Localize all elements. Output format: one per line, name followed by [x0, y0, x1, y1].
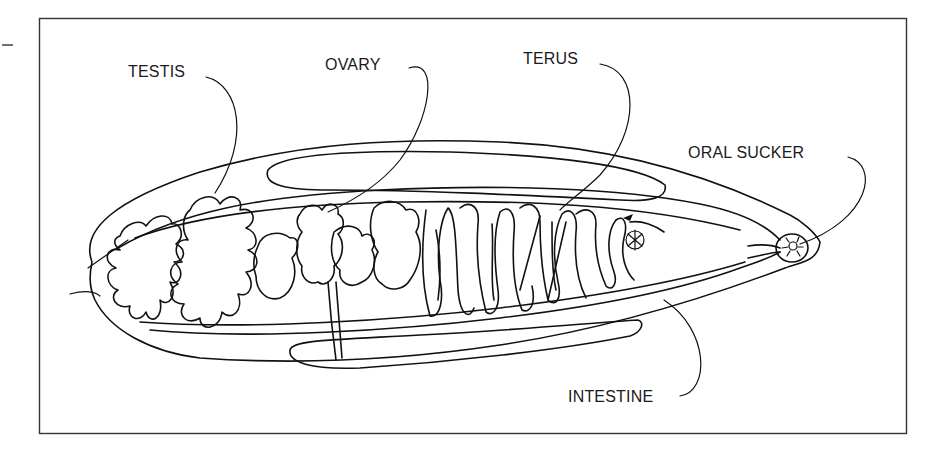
label-ovary: OVARY: [325, 57, 381, 73]
intestine-cecum-lower: [150, 252, 780, 334]
label-intestine: INTESTINE: [568, 389, 653, 405]
ovary: [297, 204, 344, 284]
leader-uterus: [560, 64, 630, 210]
label-uterus: TERUS: [523, 51, 578, 67]
body-outline: [90, 141, 820, 361]
uterus-proximal-coil: [371, 201, 421, 289]
diagram-canvas: TESTIS OVARY TERUS ORAL SUCKER INTESTINE: [0, 0, 949, 459]
leader-intestine: [664, 300, 701, 396]
posterior-notch: [70, 292, 100, 296]
figure-frame: [40, 19, 907, 434]
cirrus: [88, 240, 128, 268]
oral-sucker-mouth: [789, 242, 797, 250]
testis-anterior: [171, 197, 257, 327]
leader-testis: [206, 77, 237, 193]
uterus-coils: [423, 204, 634, 316]
label-oral-sucker: ORAL SUCKER: [688, 145, 804, 161]
pharynx: [748, 245, 780, 258]
label-testis: TESTIS: [128, 64, 185, 80]
leader-oral-sucker: [800, 157, 865, 244]
seminal-receptacle: [254, 233, 298, 298]
